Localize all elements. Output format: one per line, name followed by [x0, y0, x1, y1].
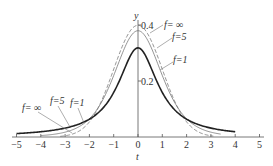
x-tick-label: 2 — [184, 139, 189, 150]
label-left-f-5: f=5 — [50, 95, 65, 106]
label-left-f-inf: f= ∞ — [22, 102, 41, 113]
leader-right-5 — [157, 38, 172, 48]
x-axis-title: t — [136, 151, 139, 162]
curve-f-5 — [41, 31, 221, 136]
x-tick-label: 1 — [160, 139, 165, 150]
x-tick-label: −4 — [35, 139, 46, 150]
x-tick-label: −5 — [11, 139, 22, 150]
curve-f-inf — [60, 25, 213, 136]
x-ticks: −5−4−3−2−1012345 — [11, 134, 262, 150]
curve-f-1 — [17, 48, 236, 134]
t-distribution-chart: −5−4−3−2−1012345 0.20.4 t y f= ∞ f=5 f=1… — [0, 0, 273, 166]
label-left-f-1: f=1 — [70, 97, 85, 108]
y-ticks: 0.20.4 — [138, 20, 154, 87]
label-right-f-1: f=1 — [173, 54, 188, 65]
y-axis-title: y — [133, 10, 139, 21]
x-tick-label: 0 — [136, 139, 141, 150]
leader-left-1 — [78, 108, 84, 123]
chart-svg: −5−4−3−2−1012345 0.20.4 t y f= ∞ f=5 f=1… — [0, 0, 273, 166]
x-tick-label: −3 — [60, 139, 71, 150]
curves — [17, 25, 236, 136]
x-tick-label: −2 — [84, 139, 95, 150]
leader-left-5 — [58, 106, 70, 127]
x-tick-label: −1 — [108, 139, 119, 150]
y-tick-label: 0.2 — [141, 76, 154, 87]
y-tick-label: 0.4 — [141, 20, 154, 31]
x-tick-label: 4 — [233, 139, 238, 150]
x-tick-label: 5 — [257, 139, 262, 150]
x-tick-label: 3 — [208, 139, 213, 150]
leader-right-1 — [160, 62, 173, 70]
label-right-f-5: f=5 — [172, 31, 187, 42]
label-right-f-inf: f= ∞ — [164, 19, 183, 30]
